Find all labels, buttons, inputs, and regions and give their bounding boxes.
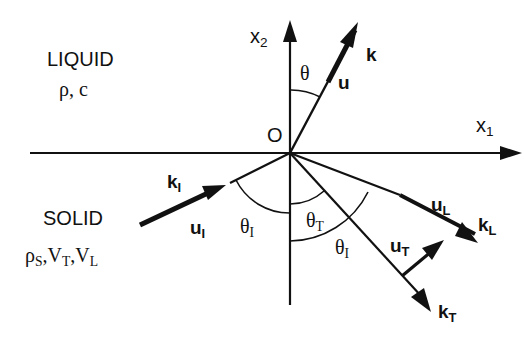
thetaI-right-arc — [290, 192, 368, 241]
thetaT-sub: T — [316, 219, 324, 234]
uL-sub: L — [443, 203, 451, 218]
vt-sub: T — [62, 254, 70, 269]
kI-arrowhead-icon — [202, 185, 226, 200]
uL-u: u — [431, 194, 443, 215]
uL-label: uL — [431, 195, 451, 218]
vl: V — [75, 244, 89, 266]
kI-k: k — [167, 171, 178, 192]
kL-k: k — [478, 214, 489, 235]
uT-label: uT — [390, 236, 410, 259]
kI-label: kI — [167, 172, 181, 195]
vector-kI — [140, 153, 290, 225]
x2-arrowhead-icon — [283, 20, 297, 42]
uI-sub: I — [202, 226, 206, 241]
theta-arc — [290, 90, 320, 97]
thetaI-right-theta: θ — [335, 236, 345, 258]
solid-label: SOLID — [43, 208, 103, 228]
x1-sub: 1 — [486, 124, 494, 139]
solid-params: ρS,VT,VL — [25, 245, 98, 269]
uT-sub: T — [402, 244, 410, 259]
x1-axis — [30, 146, 522, 160]
k-label: k — [366, 45, 377, 64]
thetaT-label: θT — [306, 210, 324, 234]
x2-sub: 2 — [260, 35, 268, 50]
kT-arrowhead-icon — [411, 288, 431, 312]
kL-sub: L — [489, 223, 497, 238]
x1-axis-label: x1 — [476, 115, 494, 139]
origin-label: O — [267, 125, 283, 145]
vl-sub: L — [90, 254, 98, 269]
thetaI-left-arc — [236, 180, 290, 213]
thetaI-right-sub: I — [345, 246, 350, 261]
vt: V — [48, 244, 62, 266]
kI-sub: I — [178, 180, 182, 195]
theta-label: θ — [300, 63, 310, 83]
x2-x: x — [250, 25, 260, 47]
u-label: u — [338, 73, 350, 92]
uI-u: u — [190, 217, 202, 238]
uT-u: u — [390, 235, 402, 256]
kT-label: kT — [438, 302, 456, 325]
thetaI-left-theta: θ — [240, 215, 250, 237]
uI-label: uI — [190, 218, 205, 241]
thetaI-left-label: θI — [240, 216, 254, 240]
kT-k: k — [438, 301, 449, 322]
rho-s: ρ — [25, 244, 35, 266]
k-arrowhead-icon — [340, 22, 358, 48]
rho-s-sub: S — [35, 254, 43, 269]
kT-sub: T — [449, 310, 457, 325]
x1-x: x — [476, 114, 486, 136]
x2-axis — [283, 20, 297, 305]
thetaI-left-sub: I — [250, 225, 255, 240]
kL-label: kL — [478, 215, 496, 238]
thetaT-arc — [290, 191, 324, 204]
x2-axis-label: x2 — [250, 26, 268, 50]
thetaI-right-label: θI — [335, 237, 349, 261]
x1-arrowhead-icon — [500, 146, 522, 160]
liquid-label: LIQUID — [47, 49, 114, 69]
liquid-params: ρ, c — [59, 79, 88, 99]
thetaT-theta: θ — [306, 209, 316, 231]
